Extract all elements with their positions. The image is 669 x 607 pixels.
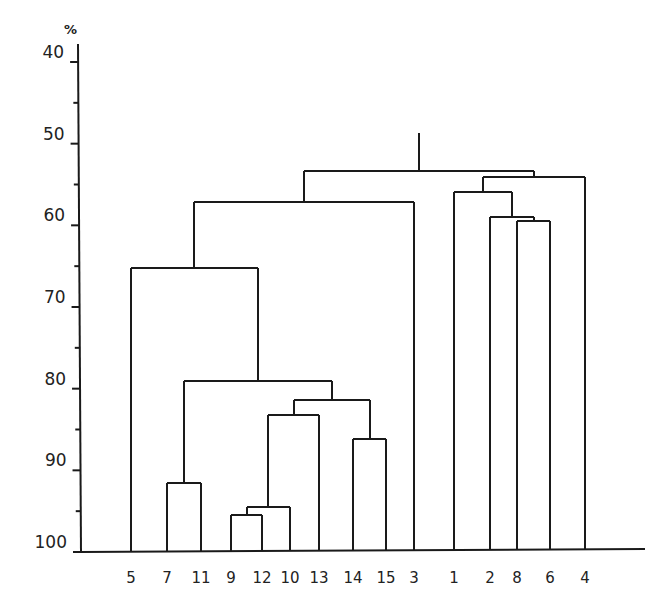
leaf-label: 15 xyxy=(376,569,395,587)
y-tick-label: 80 xyxy=(44,369,66,389)
leaf-label: 4 xyxy=(580,569,590,587)
leaf-label: 1 xyxy=(449,569,459,587)
y-tick-label: 60 xyxy=(43,205,65,225)
leaf-label: 2 xyxy=(485,569,495,587)
y-tick-label: 90 xyxy=(45,450,67,470)
leaf-labels: 571191210131415312864 xyxy=(126,569,590,587)
leaf-label: 10 xyxy=(280,569,299,587)
leaf-label: 3 xyxy=(409,569,419,587)
leaf-label: 12 xyxy=(252,569,271,587)
leaf-label: 6 xyxy=(545,569,555,587)
y-tick-label: 70 xyxy=(44,287,66,307)
leaf-label: 14 xyxy=(343,569,362,587)
leaf-label: 8 xyxy=(512,569,522,587)
y-tick-label: 100 xyxy=(35,532,67,552)
x-axis xyxy=(81,549,645,552)
leaf-label: 9 xyxy=(226,569,236,587)
dendrogram-tree xyxy=(131,133,585,552)
leaf-label: 7 xyxy=(162,569,172,587)
x-axis-baseline xyxy=(81,549,645,552)
leaf-label: 11 xyxy=(191,569,210,587)
y-tick-label: 50 xyxy=(43,124,65,144)
y-axis-line xyxy=(78,44,81,552)
leaf-label: 13 xyxy=(309,569,328,587)
dendrogram-chart: %405060708090100 571191210131415312864 xyxy=(0,0,669,607)
y-tick-label: 40 xyxy=(42,42,64,62)
y-axis-unit-label: % xyxy=(64,22,77,37)
leaf-label: 5 xyxy=(126,569,136,587)
y-axis: %405060708090100 xyxy=(35,22,81,552)
